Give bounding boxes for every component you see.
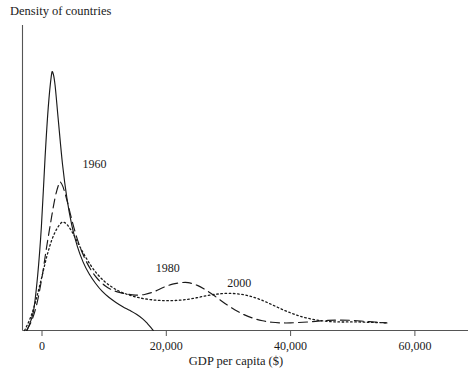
series-label-2000: 2000 [227, 277, 251, 289]
x-tick-label: 20,000 [150, 340, 183, 352]
series-label-1960: 1960 [82, 158, 106, 170]
chart-plot-area [0, 0, 472, 380]
density-curve-2000 [25, 222, 387, 330]
x-tick-label: 40,000 [274, 340, 307, 352]
density-curve-1960 [27, 71, 153, 330]
x-axis-title: GDP per capita ($) [0, 355, 472, 368]
density-curves [25, 71, 387, 330]
x-tick-label: 0 [39, 340, 45, 352]
density-chart-figure: Density of countries 020,00040,00060,000… [0, 0, 472, 380]
series-label-1980: 1980 [156, 262, 180, 274]
x-axis-ticks [42, 331, 415, 337]
x-tick-label: 60,000 [398, 340, 431, 352]
